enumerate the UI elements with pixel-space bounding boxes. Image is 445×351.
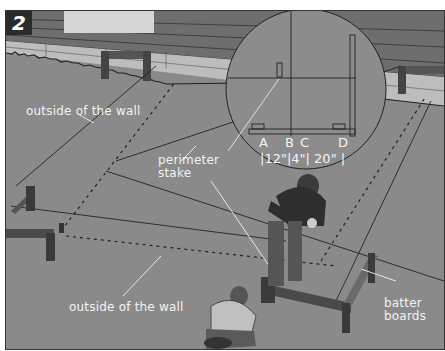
measurement-cd: 20"	[314, 151, 337, 166]
label-outside-wall-top: outside of the wall	[26, 105, 141, 118]
kneeling-worker	[204, 286, 256, 349]
illustration-frame: 2 outside of the wall perimeter stake ou…	[5, 10, 445, 350]
measurement-bc: 4"	[291, 151, 305, 166]
stake-left	[59, 223, 64, 233]
scene-drawing	[6, 11, 444, 349]
measurement-ab: 12"	[264, 151, 287, 166]
label-boards: boards	[384, 310, 426, 323]
batter-board-left-lower	[6, 229, 55, 261]
batter-board-left-upper	[11, 186, 35, 214]
door-frame	[64, 11, 154, 33]
label-outside-wall-bottom: outside of the wall	[69, 301, 184, 314]
point-b: B	[285, 136, 294, 150]
point-c: C	[300, 136, 309, 150]
point-d: D	[338, 136, 348, 150]
standing-worker	[268, 174, 326, 286]
measurement-row: |12"|4"| 20" |	[260, 152, 345, 166]
label-stake: stake	[158, 167, 191, 180]
step-number-badge: 2	[6, 11, 32, 35]
point-a: A	[259, 136, 268, 150]
